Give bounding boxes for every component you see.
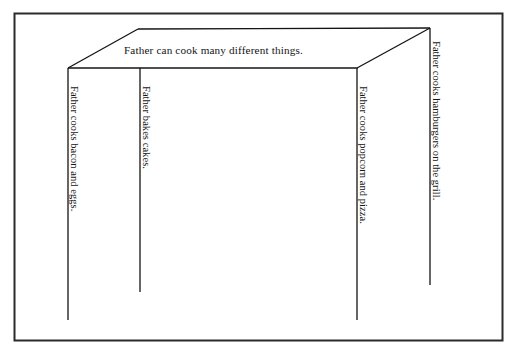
main-idea-text: Father can cook many different things. [124, 44, 303, 56]
organizer-label-layer: Father can cook many different things. F… [0, 0, 516, 357]
detail-text-2: Father bakes cakes. [141, 86, 152, 169]
worksheet-page: Father can cook many different things. F… [0, 0, 516, 357]
detail-text-1: Father cooks bacon and eggs. [69, 86, 80, 211]
detail-text-4: Father cooks hamburgers on the grill. [431, 41, 442, 200]
detail-text-3: Father cooks popcorn and pizza. [358, 86, 369, 224]
